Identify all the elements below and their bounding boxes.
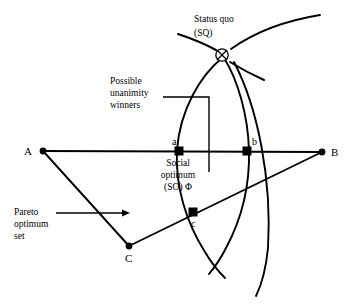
annotation-pareto-optimum-set: Pareto optimum set [14, 207, 49, 241]
pareto-label-line2: optimum [14, 219, 49, 229]
outer-indifference-arc-lower [234, 62, 269, 296]
left-indifference-curve [177, 58, 225, 278]
vertex-label-C: C [125, 252, 132, 264]
status-quo-marker-group [178, 34, 264, 80]
unanimity-label-line2: unanimity [110, 88, 149, 98]
status-quo-label-line2: (SQ) [194, 28, 212, 39]
leader-group [56, 97, 209, 217]
point-label-a: a [172, 136, 177, 147]
segment-A-C [43, 151, 129, 246]
social-optimum-label-line1: Social [166, 158, 190, 168]
unanimity-label-line1: Possible [110, 76, 142, 86]
vertex-label-B: B [331, 146, 338, 158]
social-optimum-label-line2: optimum [161, 170, 196, 180]
vertex-dot-A [40, 148, 47, 155]
unanimity-label-line3: winners [110, 100, 140, 110]
point-marker-c [189, 208, 198, 217]
status-quo-label-line1: Status quo [194, 14, 234, 24]
point-label-b: b [252, 136, 257, 147]
pareto-label-line3: set [14, 231, 25, 241]
economics-diagram: A B C a b c Status quo (SQ) Possible una… [0, 0, 354, 306]
vertex-label-A: A [24, 145, 32, 157]
sq-spoke-lower-right-icon [230, 62, 264, 80]
annotation-status-quo: Status quo (SQ) [194, 14, 234, 39]
annotation-social-optimum: Social optimum (SO) Φ [161, 158, 196, 193]
right-indifference-curve [209, 58, 249, 274]
pareto-arrow [56, 209, 130, 216]
outer-indifference-arc-upper [231, 15, 320, 49]
annotation-possible-unanimity-winners: Possible unanimity winners [110, 76, 149, 110]
vertex-dot-C [126, 243, 133, 250]
point-label-c: c [191, 218, 196, 229]
diagram-canvas: A B C a b c Status quo (SQ) Possible una… [0, 0, 354, 306]
pareto-label-line1: Pareto [14, 207, 39, 217]
point-marker-b [243, 147, 252, 156]
social-optimum-label-line3: (SO) Φ [164, 182, 192, 193]
point-marker-a [175, 147, 184, 156]
vertex-dot-B [319, 149, 326, 156]
segment-C-B [129, 152, 322, 246]
pareto-arrow-head [122, 209, 130, 216]
